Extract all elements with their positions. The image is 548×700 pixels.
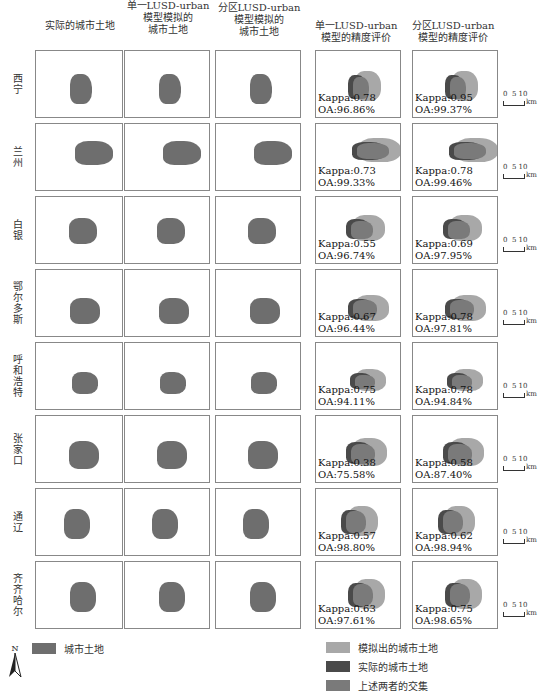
map-panel <box>215 50 301 118</box>
accuracy-stats: Kappa:0.67OA:96.44% <box>318 311 376 335</box>
accuracy-stats: Kappa:0.78OA:96.86% <box>318 92 376 116</box>
scale-bar-line <box>503 393 525 398</box>
accuracy-stats: Kappa:0.63OA:97.61% <box>318 603 376 627</box>
scale-ticks: 0 5 10 <box>503 382 537 390</box>
accuracy-stats: Kappa:0.38OA:75.58% <box>318 457 376 481</box>
scale-ticks: 0 5 10 <box>503 309 537 317</box>
urban-land-shape <box>250 298 280 324</box>
header-line: 模型的精度评价 <box>405 32 501 44</box>
accuracy-stats: Kappa:0.78OA:97.81% <box>415 311 473 335</box>
map-panel: Kappa:0.57OA:98.80% <box>315 488 401 556</box>
scale-bar: 0 5 10km <box>503 382 537 398</box>
scale-unit: km <box>526 317 537 325</box>
urban-land-shape <box>70 298 100 324</box>
map-panel: Kappa:0.75OA:94.11% <box>315 342 401 410</box>
map-panel <box>124 561 210 629</box>
scale-unit: km <box>526 609 537 617</box>
map-panel <box>215 342 301 410</box>
row-label-city: 通辽 <box>8 488 26 556</box>
urban-land-shape <box>157 218 185 244</box>
header-line: 实际的城市土地 <box>32 20 128 32</box>
map-panel: Kappa:0.55OA:96.74% <box>315 196 401 264</box>
accuracy-stats: Kappa:0.62OA:98.94% <box>415 530 473 554</box>
oa-value: OA:94.84% <box>415 396 473 408</box>
urban-land-shape <box>454 143 486 159</box>
urban-land-shape <box>248 441 278 469</box>
map-panel <box>124 196 210 264</box>
kappa-value: Kappa:0.58 <box>415 457 473 469</box>
scale-unit: km <box>526 536 537 544</box>
map-panel: Kappa:0.73OA:99.33% <box>315 123 401 191</box>
map-panel <box>35 123 123 191</box>
header-line: 城市土地 <box>213 26 305 38</box>
scale-bar-line <box>503 101 525 106</box>
row-label-city: 呼和浩特 <box>8 342 26 410</box>
urban-land-shape <box>70 582 96 612</box>
legend-label: 实际的城市土地 <box>358 659 428 674</box>
legend-simulated: 模拟出的城市土地 <box>326 640 438 655</box>
row-label-city: 张家口 <box>8 415 26 483</box>
north-label: N <box>8 644 22 653</box>
urban-land-shape <box>72 372 98 394</box>
urban-land-shape <box>357 143 389 159</box>
map-panel <box>35 488 123 556</box>
scale-bar: 0 5 10km <box>503 601 537 617</box>
urban-land-shape <box>248 218 276 244</box>
oa-value: OA:97.61% <box>318 615 376 627</box>
header-line: 模型模拟的 <box>213 14 305 26</box>
map-panel <box>215 123 301 191</box>
header-actual: 实际的城市土地 <box>32 20 128 32</box>
oa-value: OA:97.81% <box>415 323 473 335</box>
urban-land-shape <box>250 74 272 104</box>
map-panel: Kappa:0.75OA:98.65% <box>412 561 498 629</box>
north-arrow: N <box>8 644 22 681</box>
header-line: 城市土地 <box>122 24 214 36</box>
row-label-city: 兰州 <box>8 123 26 191</box>
map-panel <box>124 269 210 337</box>
scale-bar-line <box>503 466 525 471</box>
header-line: 模型的精度评价 <box>308 32 404 44</box>
urban-land-shape <box>159 298 189 324</box>
urban-land-shape <box>152 509 178 539</box>
header-line: 单一LUSD-urban <box>122 0 214 12</box>
map-panel <box>215 415 301 483</box>
map-panel: Kappa:0.63OA:97.61% <box>315 561 401 629</box>
header-line: 单一LUSD-urban <box>308 20 404 32</box>
legend-intersection: 上述两者的交集 <box>326 678 428 693</box>
scale-bar: 0 5 10km <box>503 236 537 252</box>
accuracy-stats: Kappa:0.55OA:96.74% <box>318 238 376 262</box>
scale-unit: km <box>526 390 537 398</box>
scale-ticks: 0 5 10 <box>503 601 537 609</box>
oa-value: OA:98.80% <box>318 542 376 554</box>
kappa-value: Kappa:0.67 <box>318 311 376 323</box>
kappa-value: Kappa:0.95 <box>415 92 473 104</box>
accuracy-stats: Kappa:0.69OA:97.95% <box>415 238 473 262</box>
kappa-value: Kappa:0.63 <box>318 603 376 615</box>
oa-value: OA:99.37% <box>415 104 473 116</box>
urban-land-shape <box>159 582 185 612</box>
scale-bar-line <box>503 320 525 325</box>
legend-label: 上述两者的交集 <box>358 678 428 693</box>
kappa-value: Kappa:0.78 <box>318 92 376 104</box>
accuracy-stats: Kappa:0.58OA:87.40% <box>415 457 473 481</box>
map-panel: Kappa:0.78OA:94.84% <box>412 342 498 410</box>
scale-bar: 0 5 10km <box>503 90 537 106</box>
map-panel <box>35 561 123 629</box>
kappa-value: Kappa:0.57 <box>318 530 376 542</box>
kappa-value: Kappa:0.55 <box>318 238 376 250</box>
map-panel <box>35 50 123 118</box>
map-panel: Kappa:0.95OA:99.37% <box>412 50 498 118</box>
map-panel <box>215 561 301 629</box>
scale-bar: 0 5 10km <box>503 528 537 544</box>
accuracy-stats: Kappa:0.75OA:94.11% <box>318 384 376 408</box>
urban-land-shape <box>250 582 276 612</box>
map-panel: Kappa:0.58OA:87.40% <box>412 415 498 483</box>
urban-land-shape <box>251 372 277 394</box>
kappa-value: Kappa:0.62 <box>415 530 473 542</box>
map-panel <box>35 342 123 410</box>
kappa-value: Kappa:0.75 <box>415 603 473 615</box>
oa-value: OA:98.65% <box>415 615 473 627</box>
row-label-city: 白银 <box>8 196 26 264</box>
kappa-value: Kappa:0.38 <box>318 457 376 469</box>
kappa-value: Kappa:0.78 <box>415 384 473 396</box>
